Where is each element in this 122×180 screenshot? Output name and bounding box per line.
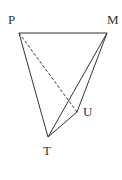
tetrahedron-diagram: P M U T [0,0,122,180]
label-P: P [8,12,15,27]
label-M: M [107,12,119,27]
edge-PT [19,33,48,137]
label-T: T [43,143,51,158]
edge-PU-hidden [19,33,77,112]
edge-TU [48,112,77,137]
edge-MU [77,33,107,112]
label-U: U [83,104,93,119]
edge-MT [48,33,107,137]
